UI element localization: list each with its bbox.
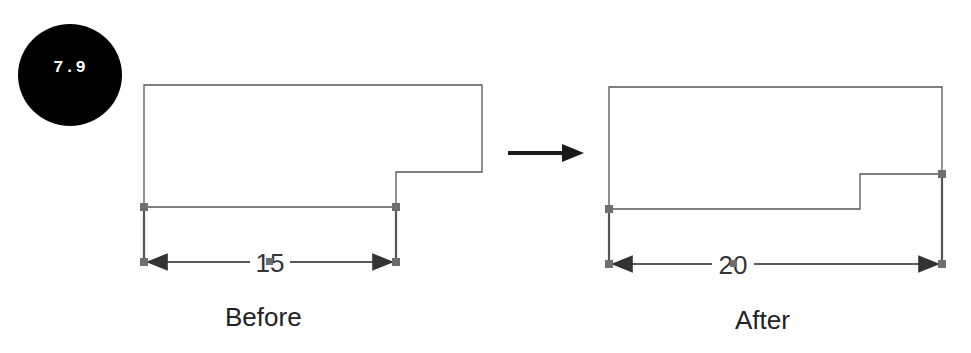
after-sketch: 20 bbox=[605, 87, 946, 280]
sketch-diagram: 7.9 15 bbox=[0, 0, 971, 353]
dimension-text-handle[interactable] bbox=[266, 258, 273, 265]
right-arrow-icon bbox=[508, 144, 584, 162]
sketch-point-handle[interactable] bbox=[605, 205, 613, 213]
sketch-point-handle[interactable] bbox=[140, 203, 148, 211]
dimension-endpoint-handle[interactable] bbox=[392, 258, 400, 266]
sketch-point-handle[interactable] bbox=[392, 203, 400, 211]
dimension-endpoint-handle[interactable] bbox=[938, 260, 946, 268]
after-profile-outline bbox=[609, 87, 942, 209]
dimension-endpoint-handle[interactable] bbox=[605, 260, 613, 268]
drawing-canvas: 15 20 bbox=[0, 0, 971, 353]
before-sketch: 15 bbox=[140, 85, 482, 278]
sketch-point-handle[interactable] bbox=[938, 170, 946, 178]
dimension-text-handle[interactable] bbox=[730, 260, 737, 267]
before-caption: Before bbox=[225, 302, 302, 333]
before-profile-outline bbox=[144, 85, 482, 207]
after-caption: After bbox=[735, 305, 790, 336]
dimension-endpoint-handle[interactable] bbox=[140, 258, 148, 266]
